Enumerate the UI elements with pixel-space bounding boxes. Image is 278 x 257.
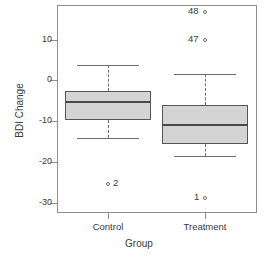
whisker-upper [108, 65, 109, 90]
outlier-label-2: 2 [113, 178, 118, 188]
x-tick-label-treatment: Treatment [155, 222, 255, 232]
x-tick-label-control: Control [58, 222, 158, 232]
y-axis-label: BDI Change [14, 65, 25, 157]
x-tick-mark [205, 213, 206, 219]
whisker-cap-lower [174, 156, 236, 157]
outlier-label-48: 48 [188, 6, 199, 16]
outlier-label-47: 47 [188, 34, 199, 44]
median-line-treatment [162, 124, 248, 126]
outlier-point [203, 196, 207, 200]
whisker-lower [108, 120, 109, 137]
y-tick-label: -10 [39, 116, 52, 125]
whisker-lower [205, 144, 206, 156]
x-tick-mark [108, 213, 109, 219]
boxplot-figure: 100-10-20-30 BDI Change ControlTreatment… [0, 0, 278, 257]
y-tick-label: 0 [47, 75, 52, 84]
whisker-cap-upper [77, 65, 139, 66]
whisker-cap-lower [77, 138, 139, 139]
box-control [65, 91, 151, 121]
y-tick-label: 10 [42, 35, 52, 44]
x-axis-label: Group [0, 238, 278, 249]
y-tick-label: -20 [39, 157, 52, 166]
median-line-control [65, 101, 151, 103]
whisker-upper [205, 74, 206, 105]
outlier-point [203, 38, 207, 42]
whisker-cap-upper [174, 74, 236, 75]
outlier-label-1: 1 [194, 192, 199, 202]
y-tick-label: -30 [39, 198, 52, 207]
